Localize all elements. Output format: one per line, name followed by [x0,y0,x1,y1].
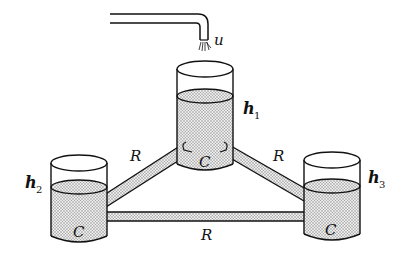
three-tank-diagram: u C h 1 C h 2 [0,0,404,259]
pipe-1-3-resistance-label: R [272,147,284,165]
pipe-2-3-resistance-label: R [200,226,212,244]
tank-3-level-label: h [368,168,380,187]
water-spray-icon [199,42,211,51]
tank-1-capacitance-label: C [199,153,211,171]
tank-1-level-subscript: 1 [254,110,260,121]
tank-3-level-subscript: 3 [379,179,385,190]
tank-2-capacitance-label: C [73,223,85,241]
tank-3-capacitance-label: C [325,221,337,239]
pipe-2-3 [104,212,306,221]
tank-2-level-label: h [25,173,37,192]
inflow-pipe [110,14,208,40]
tank-2-level-subscript: 2 [36,184,42,195]
tank-1-level-label: h [243,99,255,118]
input-label-u: u [214,31,224,49]
pipe-1-2-resistance-label: R [129,147,141,165]
